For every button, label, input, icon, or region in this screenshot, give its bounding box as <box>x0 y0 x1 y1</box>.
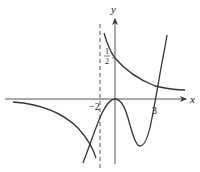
x-axis-label: x <box>189 93 195 105</box>
x-tick-label-3: 3 <box>152 105 157 116</box>
x-tick-label-neg2: −2 <box>89 101 100 112</box>
y-axis-label: y <box>110 3 116 15</box>
y-tick-label-half-denominator: 2 <box>105 57 109 66</box>
hyperbola-upper-right <box>104 33 185 90</box>
y-tick-label-half-numerator: 1 <box>105 47 109 56</box>
hyperbola-lower-left <box>13 102 96 158</box>
function-graph-figure: y x −2 3 1 2 <box>0 0 200 172</box>
